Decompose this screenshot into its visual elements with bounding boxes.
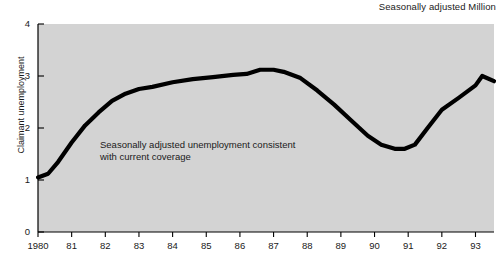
y-tick-label: 4 (16, 19, 30, 29)
x-tick-label: 81 (55, 241, 89, 251)
x-tick-label: 91 (391, 241, 425, 251)
y-tick-label: 2 (16, 123, 30, 133)
x-tick-label: 86 (223, 241, 257, 251)
annotation-line-1: Seasonally adjusted unemployment consist… (100, 139, 330, 151)
y-tick-label: 1 (16, 175, 30, 185)
x-tick-label: 93 (458, 241, 492, 251)
x-tick-label: 82 (88, 241, 122, 251)
chart-annotation: Seasonally adjusted unemployment consist… (100, 139, 330, 162)
unemployment-chart-figure: Seasonally adjusted Million Claimant une… (0, 0, 504, 261)
x-tick-label: 83 (122, 241, 156, 251)
x-tick-label: 92 (425, 241, 459, 251)
x-tick-label: 87 (257, 241, 291, 251)
x-axis-ticks (38, 232, 475, 237)
annotation-line-2: with current coverage (100, 151, 330, 163)
x-tick-label: 1980 (21, 241, 55, 251)
x-tick-label: 84 (156, 241, 190, 251)
y-tick-label: 0 (16, 227, 30, 237)
x-tick-label: 88 (290, 241, 324, 251)
plot-area (0, 0, 504, 261)
x-tick-label: 85 (189, 241, 223, 251)
x-tick-label: 90 (358, 241, 392, 251)
x-tick-label: 89 (324, 241, 358, 251)
y-tick-label: 3 (16, 71, 30, 81)
